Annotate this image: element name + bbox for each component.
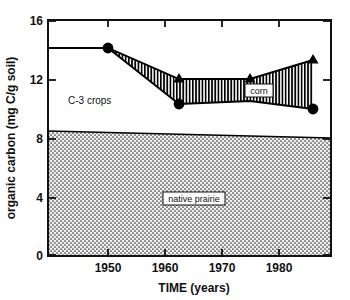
organic-carbon-time-chart: 16 12 8 4 0 1950 1960 1970 1980 TIME (ye…: [0, 0, 350, 300]
annotation-c3-crops: C-3 crops: [68, 95, 111, 106]
y-tick-label-8: 8: [36, 132, 43, 146]
y-axis-title: organic carbon (mg C/g soil): [4, 57, 18, 220]
y-tick-label-0: 0: [36, 249, 43, 263]
chart-figure: 16 12 8 4 0 1950 1960 1970 1980 TIME (ye…: [0, 0, 350, 300]
y-tick-label-4: 4: [36, 191, 43, 205]
annotation-corn-label: corn: [250, 86, 268, 96]
y-tick-label-12: 12: [30, 73, 44, 87]
annotation-native-prairie-label: native prairie: [168, 194, 220, 204]
annotation-corn: corn: [245, 84, 273, 97]
x-tick-label-1950: 1950: [95, 261, 122, 275]
x-axis-title: TIME (years): [158, 281, 229, 295]
x-tick-label-1970: 1970: [209, 261, 236, 275]
annotation-native-prairie: native prairie: [163, 192, 225, 205]
x-tick-label-1960: 1960: [152, 261, 179, 275]
x-tick-label-1980: 1980: [266, 261, 293, 275]
y-tick-label-16: 16: [30, 14, 44, 28]
